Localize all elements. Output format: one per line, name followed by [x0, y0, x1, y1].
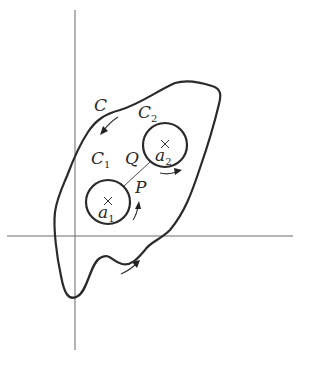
label-a2: a2	[155, 145, 172, 167]
label-p: P	[134, 177, 147, 197]
label-a1: a1	[98, 202, 115, 224]
label-c1: C1	[91, 148, 110, 170]
arrow-c2-icon	[160, 168, 182, 175]
contour-diagram: C C2 C1 Q P a1 a2	[0, 0, 316, 371]
arrow-contour-top-icon	[100, 117, 118, 135]
arrow-c1-icon	[133, 201, 141, 220]
label-c: C	[94, 95, 107, 115]
label-q: Q	[125, 148, 139, 168]
label-c2: C2	[138, 102, 157, 124]
